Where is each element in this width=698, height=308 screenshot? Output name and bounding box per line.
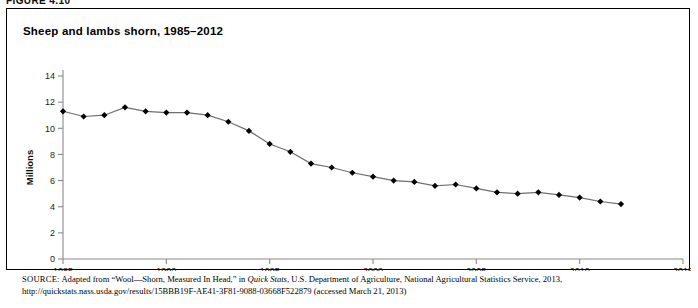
source-italic-title: Quick Stats bbox=[248, 274, 287, 284]
data-point-marker bbox=[556, 192, 562, 198]
data-point-marker bbox=[411, 179, 417, 185]
y-axis-title: Millions bbox=[24, 150, 35, 185]
y-tick-label: 6 bbox=[50, 176, 55, 186]
x-tick-label: 2005 bbox=[466, 266, 486, 271]
data-point-marker bbox=[163, 110, 169, 116]
source-text-part1: Adapted from “Wool—Shorn, Measured In He… bbox=[60, 274, 248, 284]
data-point-marker bbox=[81, 113, 87, 119]
y-tick-label: 14 bbox=[45, 71, 55, 81]
data-point-marker bbox=[432, 183, 438, 189]
data-point-marker bbox=[577, 194, 583, 200]
x-tick-label: 1995 bbox=[260, 266, 280, 271]
data-point-marker bbox=[453, 181, 459, 187]
data-point-marker bbox=[308, 160, 314, 166]
x-tick-label: 2010 bbox=[570, 266, 590, 271]
y-tick-label: 10 bbox=[45, 124, 55, 134]
y-tick-label: 12 bbox=[45, 97, 55, 107]
x-tick-label: 2015 bbox=[673, 266, 691, 271]
data-point-marker bbox=[225, 119, 231, 125]
y-tick-label: 2 bbox=[50, 228, 55, 238]
data-point-marker bbox=[618, 201, 624, 207]
x-tick-label: 1990 bbox=[156, 266, 176, 271]
y-tick-label: 8 bbox=[50, 150, 55, 160]
source-line-2: http://quickstats.nass.usda.gov/results/… bbox=[22, 286, 682, 298]
chart-plot-area: 02468101214 1985199019952000200520102015… bbox=[7, 9, 691, 271]
data-point-marker bbox=[287, 149, 293, 155]
data-point-marker bbox=[60, 108, 66, 114]
data-point-marker bbox=[473, 185, 479, 191]
series-line bbox=[63, 107, 621, 204]
data-point-marker bbox=[515, 191, 521, 197]
data-point-marker bbox=[535, 189, 541, 195]
source-note: SOURCE: Adapted from “Wool—Shorn, Measur… bbox=[22, 274, 682, 297]
data-point-marker bbox=[370, 174, 376, 180]
y-axis: 02468101214 bbox=[45, 70, 63, 264]
y-tick-label: 0 bbox=[50, 254, 55, 264]
data-point-marker bbox=[184, 110, 190, 116]
figure-panel: Sheep and lambs shorn, 1985–2012 0246810… bbox=[6, 8, 690, 270]
data-point-marker bbox=[205, 112, 211, 118]
x-tick-label: 2000 bbox=[363, 266, 383, 271]
x-axis: 1985199019952000200520102015 bbox=[53, 259, 691, 271]
line-chart-svg: 02468101214 1985199019952000200520102015… bbox=[7, 9, 691, 271]
figure-header: FIGURE 4.10 bbox=[6, 0, 70, 6]
data-point-marker bbox=[246, 128, 252, 134]
data-point-marker bbox=[597, 198, 603, 204]
data-point-marker bbox=[349, 170, 355, 176]
data-point-marker bbox=[143, 108, 149, 114]
y-tick-label: 4 bbox=[50, 202, 55, 212]
data-point-marker bbox=[267, 141, 273, 147]
data-series-sheep-and-lambs-shorn bbox=[60, 104, 624, 207]
data-point-marker bbox=[101, 112, 107, 118]
data-point-marker bbox=[494, 189, 500, 195]
source-line-1: SOURCE: Adapted from “Wool—Shorn, Measur… bbox=[22, 274, 682, 286]
data-point-marker bbox=[329, 164, 335, 170]
data-point-marker bbox=[122, 104, 128, 110]
source-text-part2: , U.S. Department of Agriculture, Nation… bbox=[287, 274, 562, 284]
x-tick-label: 1985 bbox=[53, 266, 73, 271]
source-label: SOURCE: bbox=[22, 274, 60, 284]
data-point-marker bbox=[391, 177, 397, 183]
